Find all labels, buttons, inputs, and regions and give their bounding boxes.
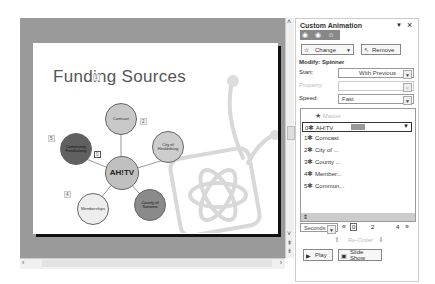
timeline-unit-select[interactable]: Seconds▼ xyxy=(300,223,338,232)
list-item-label: 0✱ AH!TV xyxy=(305,124,333,132)
node-number: 4 xyxy=(64,191,71,198)
node-memberships[interactable]: Memberships xyxy=(77,193,109,225)
timeline-tick: 4 xyxy=(396,224,399,230)
forward-icon[interactable]: ◉ xyxy=(315,31,321,39)
pane-title: Custom Animation xyxy=(300,22,362,29)
list-item[interactable]: 5✱ Commun... xyxy=(304,182,344,190)
chevron-down-icon: ▼ xyxy=(403,83,412,92)
move-down-icon[interactable]: ⬇ xyxy=(378,236,384,244)
slide-show-icon: ▣ xyxy=(341,252,347,259)
slide-show-button[interactable]: ▣Slide Show xyxy=(338,249,382,261)
chevron-down-icon: ▼ xyxy=(403,96,412,105)
node-number: 1 xyxy=(93,74,100,81)
node-number: 0 xyxy=(94,151,101,158)
animation-icon: ✱ xyxy=(307,134,313,141)
reorder-label: Re-Order xyxy=(348,237,373,243)
node-number: 5 xyxy=(48,135,55,142)
speed-label: Speed: xyxy=(299,95,318,101)
node-community[interactable]: Community Fundraising xyxy=(60,133,92,165)
remove-icon: ↖ xyxy=(364,46,369,53)
close-icon[interactable]: × xyxy=(407,20,412,30)
pane-navigation-toolbar: ◉ ◉ ⌂ xyxy=(300,30,340,40)
chevron-down-icon: ▼ xyxy=(403,70,412,79)
home-icon[interactable]: ⌂ xyxy=(329,31,333,38)
animation-icon: ✱ xyxy=(307,170,313,177)
star-icon: ☆ xyxy=(304,46,309,53)
play-button[interactable]: ▶Play xyxy=(303,249,333,261)
change-button[interactable]: ☆ Change ▼ xyxy=(301,44,354,55)
node-city[interactable]: City of Healdsburg xyxy=(152,131,184,163)
timeline-right-icon[interactable]: » xyxy=(405,223,409,230)
expand-icon[interactable]: ⇕ xyxy=(303,213,308,220)
scroll-down-icon[interactable]: ˅ xyxy=(287,230,291,237)
list-item[interactable]: 1✱ Comcast xyxy=(304,134,339,142)
list-header: ★ Master xyxy=(315,112,341,120)
animation-icon: ✱ xyxy=(307,182,313,189)
list-item-selected[interactable]: 0✱ AH!TV ▼ xyxy=(302,122,412,132)
timeline-tick: 2 xyxy=(371,224,374,230)
property-label: Property: xyxy=(299,82,323,88)
list-item[interactable]: 3✱ County ... xyxy=(304,158,341,166)
node-county[interactable]: County of Sonoma xyxy=(134,189,166,221)
node-number: 2 xyxy=(140,118,147,125)
property-select[interactable]: ▼ xyxy=(338,81,414,91)
remove-button[interactable]: ↖ Remove xyxy=(361,44,401,55)
star-icon: ★ xyxy=(315,112,321,119)
slide[interactable]: Funding Sources 1 Comcast 2 City of Heal… xyxy=(33,43,278,234)
back-icon[interactable]: ◉ xyxy=(302,31,308,39)
animation-icon: ✱ xyxy=(307,158,313,165)
list-item[interactable]: 4✱ Member... xyxy=(304,170,342,178)
next-slide-icon[interactable]: ⇟ xyxy=(287,247,292,254)
list-expand-bar[interactable]: ⇕ xyxy=(301,213,415,221)
scroll-right-icon[interactable]: › xyxy=(280,259,282,266)
start-label: Start: xyxy=(299,69,313,75)
chevron-down-icon[interactable]: ▼ xyxy=(403,123,409,129)
timing-bar xyxy=(351,124,365,130)
node-comcast[interactable]: Comcast xyxy=(105,103,137,135)
list-item[interactable]: 2✱ City of ... xyxy=(304,146,339,154)
node-center[interactable]: AH!TV xyxy=(105,156,139,190)
chevron-down-icon: ▼ xyxy=(327,225,336,234)
timeline-tick: 0 xyxy=(350,223,357,231)
animation-icon: ✱ xyxy=(308,124,314,131)
speed-select[interactable]: Fast▼ xyxy=(338,94,414,104)
chevron-down-icon: ▼ xyxy=(346,47,351,53)
animation-icon: ✱ xyxy=(307,146,313,153)
move-up-icon[interactable]: ⬆ xyxy=(334,236,340,244)
modify-label: Modify: Spinner xyxy=(299,59,344,65)
horizontal-scrollbar[interactable]: ‹ › xyxy=(20,258,285,269)
vertical-scrollbar[interactable]: ˄ ˅ ⇞ ⇟ xyxy=(285,18,294,258)
timeline-left-icon[interactable]: « xyxy=(342,223,346,230)
custom-animation-pane: Custom Animation ▼ × ◉ ◉ ⌂ ☆ Change ▼ ↖ … xyxy=(295,18,419,282)
play-icon: ▶ xyxy=(306,252,311,259)
scroll-up-icon[interactable]: ˄ xyxy=(287,18,291,25)
pane-menu-icon[interactable]: ▼ xyxy=(396,22,402,28)
scroll-thumb[interactable] xyxy=(287,126,295,140)
previous-slide-icon[interactable]: ⇞ xyxy=(287,239,292,246)
animation-list[interactable]: ★ Master 0✱ AH!TV ▼ 1✱ Comcast 2✱ City o… xyxy=(300,108,416,222)
start-select[interactable]: With Previous▼ xyxy=(338,68,414,78)
scroll-left-icon[interactable]: ‹ xyxy=(22,259,24,266)
scroll-thumb[interactable] xyxy=(42,260,272,267)
